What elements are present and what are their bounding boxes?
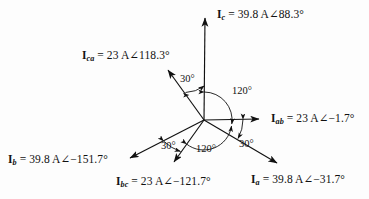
value-Iab: = 23 A∠−1.7°: [284, 112, 355, 124]
phasor-vectors: [130, 18, 277, 163]
label-Ib: Ib = 39.8 A∠−151.7°: [8, 152, 108, 167]
label-Ibc: Ibc = 23 A∠−121.7°: [116, 174, 211, 189]
value-Ic: = 39.8 A∠88.3°: [225, 8, 304, 20]
subscript-Iab: ab: [276, 117, 284, 126]
angle-label-120-lower: 120°: [196, 143, 216, 154]
phasor-diagram-figure: Ic = 39.8 A∠88.3° Ica = 23 A∠118.3° Iab …: [0, 0, 369, 199]
vector-Ibc: [174, 120, 204, 162]
angle-label-30-upper: 30°: [180, 73, 195, 84]
angle-label-30-right: 30°: [239, 138, 254, 149]
arc-30-right: [238, 119, 243, 138]
label-Iab: Iab = 23 A∠−1.7°: [271, 111, 354, 126]
label-Ica: Ica = 23 A∠118.3°: [82, 48, 170, 63]
value-Ia: = 39.8 A∠−31.7°: [260, 173, 345, 185]
value-Ibc: = 23 A∠−121.7°: [128, 175, 210, 187]
arc-30-upper: [186, 86, 205, 93]
label-Ia: Ia = 39.8 A∠−31.7°: [251, 172, 345, 187]
value-Ib: = 39.8 A∠−151.7°: [17, 153, 108, 165]
vector-Ib: [130, 120, 204, 158]
label-Ic: Ic = 39.8 A∠88.3°: [217, 7, 304, 22]
angle-label-120-upper: 120°: [232, 85, 252, 96]
vector-Ic: [204, 18, 205, 120]
angle-label-30-left: 30°: [161, 140, 176, 151]
phasor-vector-canvas: [0, 0, 369, 199]
vector-Iab: [204, 119, 259, 120]
arc-30-upper-back: [189, 90, 204, 95]
value-Ica: = 23 A∠118.3°: [94, 49, 169, 61]
